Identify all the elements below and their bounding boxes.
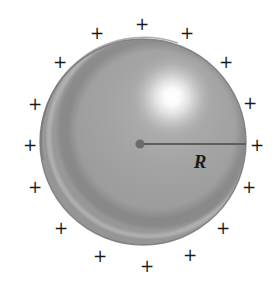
sphere-center-dot (135, 139, 144, 148)
charge-symbol-wsw: + (54, 218, 68, 238)
charge-symbol-ese: + (216, 218, 230, 238)
charge-symbol-n: + (135, 14, 149, 34)
charge-symbol-e-up: + (243, 93, 257, 113)
charge-symbol-ssw: + (93, 246, 107, 266)
charge-symbol-sse: + (183, 245, 197, 265)
sphere-specular-highlight (126, 51, 218, 143)
charge-symbol-nnw: + (90, 23, 104, 43)
figure-container: R + + + + + + + + + + + + + + + + (0, 0, 277, 281)
charge-symbol-e-dn: + (242, 177, 256, 197)
charge-symbol-w: + (23, 135, 37, 155)
sphere-diagram: R + + + + + + + + + + + + + + + + (0, 0, 277, 281)
charge-symbol-wnw: + (53, 52, 67, 72)
charge-symbol-ene: + (219, 52, 233, 72)
charge-symbol-e: + (250, 135, 264, 155)
charge-symbol-w-dn: + (28, 177, 42, 197)
radius-label: R (193, 151, 207, 172)
charge-symbol-s: + (140, 256, 154, 276)
charge-symbol-w-up: + (28, 94, 42, 114)
charge-symbol-nne: + (180, 23, 194, 43)
